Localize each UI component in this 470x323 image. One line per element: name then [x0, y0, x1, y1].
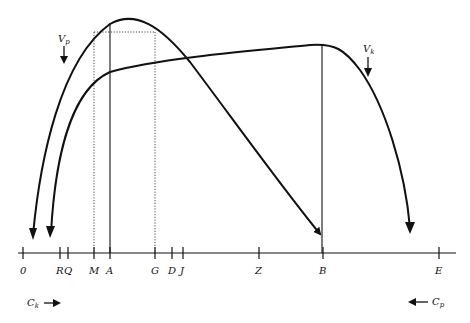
tick-label-m: M: [88, 265, 100, 276]
tick-label-0: 0: [20, 265, 27, 276]
tick-label-z: Z: [254, 265, 263, 276]
tick-labels: 0 R Q M A G D J Z B E: [20, 265, 443, 276]
tick-label-d: D: [167, 265, 176, 276]
vk-arrowhead-icon: [364, 68, 372, 77]
tick-label-b: B: [318, 265, 326, 276]
tick-label-a: A: [105, 265, 113, 276]
vp-arrowhead-icon: [60, 56, 68, 64]
tick-label-j: J: [178, 265, 185, 276]
tick-label-e: E: [434, 265, 443, 276]
curve-vp: [33, 19, 320, 235]
curve-vk: [51, 45, 410, 233]
ck-arrowhead-icon: [53, 299, 61, 307]
vk-end-arrowhead: [405, 222, 415, 234]
vk-start-arrowhead: [46, 226, 55, 238]
ck-label: Ck: [27, 297, 39, 310]
vp-label: Vp: [58, 33, 70, 46]
vk-label: Vk: [363, 43, 374, 56]
vp-start-arrowhead: [29, 228, 37, 240]
diagram-canvas: 0 R Q M A G D J Z B E Vp Vk Ck Cp: [0, 0, 470, 323]
cp-label: Cp: [432, 296, 445, 309]
tick-label-q: Q: [64, 265, 72, 276]
cp-arrowhead-icon: [408, 298, 416, 306]
tick-label-r: R: [55, 265, 64, 276]
tick-label-g: G: [151, 265, 159, 276]
